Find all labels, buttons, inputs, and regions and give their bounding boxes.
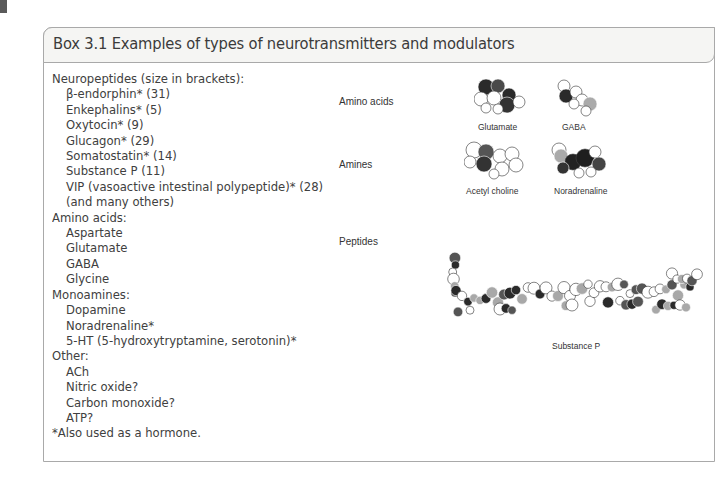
row-label-amino-acids: Amino acids xyxy=(339,96,393,107)
list-item: Somatostatin* (14) xyxy=(52,148,323,163)
list-item: Carbon monoxide? xyxy=(52,395,323,410)
list-item: ACh xyxy=(52,364,323,379)
list-item: Glucagon* (29) xyxy=(52,133,323,148)
box-title: Box 3.1 Examples of types of neurotransm… xyxy=(53,35,515,53)
glutamate-molecule-image xyxy=(474,78,534,118)
row-label-peptides: Peptides xyxy=(339,236,378,247)
neurotransmitter-list: Neuropeptides (size in brackets):β-endor… xyxy=(52,71,323,441)
box-3-1: Box 3.1 Examples of types of neurotransm… xyxy=(43,27,715,462)
list-item: Dopamine xyxy=(52,302,323,317)
list-item: Enkephalins* (5) xyxy=(52,102,323,117)
page-corner-mark xyxy=(0,0,7,13)
acetylcholine-caption: Acetyl choline xyxy=(466,186,518,196)
list-item: VIP (vasoactive intestinal polypeptide)*… xyxy=(52,179,323,194)
list-item: Glycine xyxy=(52,271,323,286)
list-category: Neuropeptides (size in brackets): xyxy=(52,71,323,86)
row-label-amines: Amines xyxy=(339,159,372,170)
list-category: Amino acids: xyxy=(52,210,323,225)
list-category: Other: xyxy=(52,348,323,363)
glutamate-caption: Glutamate xyxy=(478,122,517,132)
substance-p-caption: Substance P xyxy=(552,341,600,351)
list-item: (and many others) xyxy=(52,194,323,209)
noradrenaline-caption: Noradrenaline xyxy=(554,186,607,196)
box-header: Box 3.1 Examples of types of neurotransm… xyxy=(43,27,715,63)
list-item: Glutamate xyxy=(52,240,323,255)
list-item: Substance P (11) xyxy=(52,163,323,178)
list-item: Oxytocin* (9) xyxy=(52,117,323,132)
list-item: Nitric oxide? xyxy=(52,379,323,394)
gaba-caption: GABA xyxy=(562,122,586,132)
list-item: Aspartate xyxy=(52,225,323,240)
footnote: *Also used as a hormone. xyxy=(52,425,323,440)
noradrenaline-molecule-image xyxy=(549,140,613,182)
list-item: Noradrenaline* xyxy=(52,318,323,333)
list-item: 5-HT (5-hydroxytryptamine, serotonin)* xyxy=(52,333,323,348)
list-category: Monoamines: xyxy=(52,287,323,302)
list-item: β-endorphin* (31) xyxy=(52,86,323,101)
gaba-molecule-image xyxy=(554,78,602,118)
list-item: ATP? xyxy=(52,410,323,425)
acetylcholine-molecule-image xyxy=(464,140,530,182)
list-item: GABA xyxy=(52,256,323,271)
substance-p-molecule-image xyxy=(442,250,704,332)
